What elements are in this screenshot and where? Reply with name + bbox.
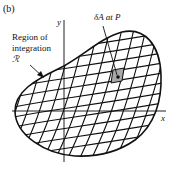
point-p: [116, 75, 120, 79]
y-axis-label: y: [56, 17, 61, 27]
panel-label: (b): [3, 3, 15, 15]
integration-region-diagram: (b) y Region of integration ℛ δA at P x: [0, 0, 179, 174]
element-label: δA at P: [94, 12, 121, 22]
x-axis-label: x: [160, 113, 165, 123]
region-label-line1: Region of: [12, 32, 48, 42]
region-label-line2: integration: [12, 43, 51, 53]
region-symbol: ℛ: [12, 54, 20, 64]
